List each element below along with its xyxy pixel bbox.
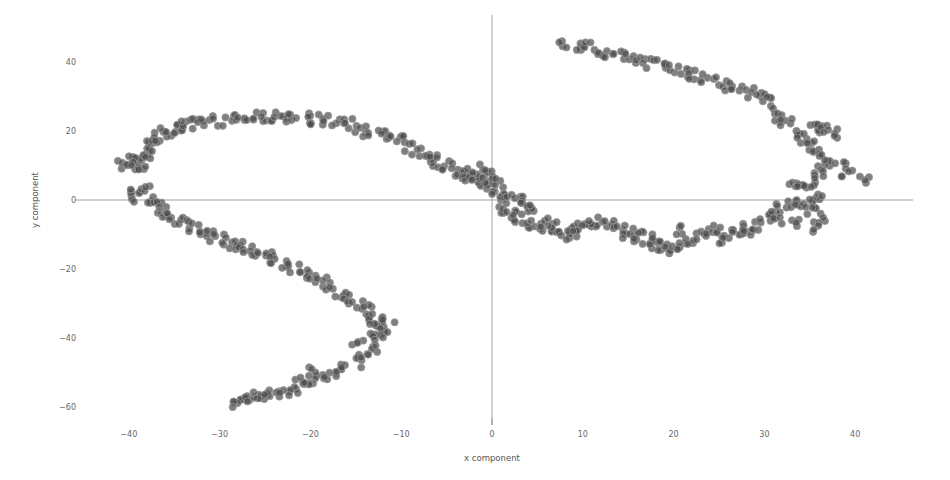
data-point bbox=[127, 186, 134, 193]
data-point bbox=[320, 118, 327, 125]
data-point bbox=[210, 115, 217, 122]
data-point bbox=[720, 234, 727, 241]
data-point bbox=[346, 291, 353, 298]
y-tick-label: 0 bbox=[71, 196, 76, 205]
data-point bbox=[677, 70, 684, 77]
y-tick-label: 40 bbox=[66, 58, 76, 67]
data-point bbox=[728, 86, 735, 93]
data-point bbox=[469, 169, 476, 176]
data-point bbox=[142, 163, 149, 170]
data-point bbox=[341, 119, 348, 126]
data-point bbox=[243, 116, 250, 123]
data-point bbox=[492, 175, 499, 182]
data-point bbox=[254, 249, 261, 256]
data-point bbox=[820, 173, 827, 180]
scatter-chart: −40−30−20−10010203040 −60−40−2002040 x c… bbox=[0, 0, 950, 480]
data-point bbox=[362, 123, 369, 130]
data-point bbox=[332, 293, 339, 300]
data-point bbox=[366, 320, 373, 327]
data-point bbox=[258, 113, 265, 120]
data-point bbox=[691, 67, 698, 74]
data-point bbox=[250, 389, 257, 396]
data-point bbox=[553, 219, 560, 226]
data-point bbox=[653, 56, 660, 63]
data-point bbox=[358, 364, 365, 371]
data-point bbox=[646, 241, 653, 248]
data-point bbox=[377, 325, 384, 332]
data-point bbox=[293, 114, 300, 121]
data-point bbox=[439, 166, 446, 173]
data-point bbox=[818, 192, 825, 199]
data-point bbox=[489, 190, 496, 197]
data-point bbox=[673, 231, 680, 238]
data-point bbox=[665, 61, 672, 68]
data-point bbox=[142, 183, 149, 190]
data-point bbox=[365, 351, 372, 358]
data-point bbox=[528, 217, 535, 224]
data-point bbox=[229, 404, 236, 411]
data-point bbox=[794, 183, 801, 190]
data-point bbox=[307, 121, 314, 128]
data-point bbox=[393, 138, 400, 145]
data-point bbox=[639, 240, 646, 247]
zero-lines bbox=[75, 15, 913, 425]
data-point bbox=[219, 239, 226, 246]
data-point bbox=[788, 115, 795, 122]
data-point bbox=[365, 132, 372, 139]
data-point bbox=[793, 219, 800, 226]
data-point bbox=[240, 249, 247, 256]
data-point bbox=[811, 138, 818, 145]
data-point bbox=[308, 365, 315, 372]
data-point bbox=[188, 220, 195, 227]
data-point bbox=[156, 204, 163, 211]
data-point bbox=[354, 339, 361, 346]
data-point bbox=[349, 115, 356, 122]
data-point bbox=[313, 275, 320, 282]
data-point bbox=[518, 211, 525, 218]
data-point bbox=[186, 228, 193, 235]
data-point bbox=[753, 91, 760, 98]
data-point bbox=[178, 118, 185, 125]
data-point bbox=[391, 319, 398, 326]
data-point bbox=[794, 134, 801, 141]
data-point bbox=[740, 228, 747, 235]
data-point bbox=[563, 236, 570, 243]
data-point bbox=[148, 148, 155, 155]
data-point bbox=[684, 240, 691, 247]
data-point bbox=[414, 146, 421, 153]
data-points bbox=[114, 38, 872, 411]
data-point bbox=[244, 398, 251, 405]
data-point bbox=[585, 217, 592, 224]
data-point bbox=[845, 168, 852, 175]
data-point bbox=[556, 39, 563, 46]
data-point bbox=[294, 389, 301, 396]
data-point bbox=[544, 215, 551, 222]
data-point bbox=[601, 218, 608, 225]
data-point bbox=[699, 71, 706, 78]
data-point bbox=[276, 389, 283, 396]
data-point bbox=[545, 222, 552, 229]
data-point bbox=[655, 247, 662, 254]
data-point bbox=[163, 129, 170, 136]
data-point bbox=[800, 130, 807, 137]
data-point bbox=[563, 44, 570, 51]
data-point bbox=[809, 204, 816, 211]
data-point bbox=[821, 157, 828, 164]
x-tick-label: 10 bbox=[578, 430, 588, 439]
data-point bbox=[755, 226, 762, 233]
data-point bbox=[130, 198, 137, 205]
data-point bbox=[503, 208, 510, 215]
data-point bbox=[579, 222, 586, 229]
data-point bbox=[371, 336, 378, 343]
data-point bbox=[621, 222, 628, 229]
data-point bbox=[219, 122, 226, 129]
data-point bbox=[510, 211, 517, 218]
y-tick-label: 20 bbox=[66, 127, 76, 136]
data-point bbox=[643, 65, 650, 72]
data-point bbox=[526, 202, 533, 209]
data-point bbox=[297, 374, 304, 381]
data-point bbox=[831, 132, 838, 139]
data-point bbox=[768, 208, 775, 215]
data-point bbox=[433, 154, 440, 161]
y-axis-title: y component bbox=[30, 171, 40, 227]
